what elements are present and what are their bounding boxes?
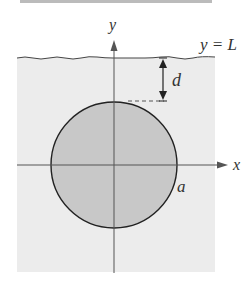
radius-label: a <box>177 177 186 196</box>
x-axis-arrow-icon <box>217 162 228 169</box>
x-axis-label: x <box>232 156 240 173</box>
y-axis-arrow-icon <box>111 40 118 51</box>
depth-label: d <box>172 70 182 90</box>
cropped-text-line <box>20 0 212 3</box>
submerged-disk-diagram: y x y = L d a <box>0 0 252 285</box>
surface-label: y = L <box>198 35 237 54</box>
y-axis-label: y <box>107 16 117 34</box>
